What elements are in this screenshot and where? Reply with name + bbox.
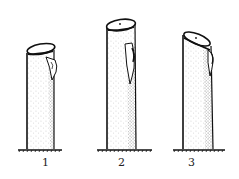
figure-label-3: 3 <box>188 157 195 168</box>
stem-1 <box>18 42 62 152</box>
figure-label-1: 1 <box>42 157 49 168</box>
pruning-diagram <box>0 0 239 179</box>
stem-2 <box>97 18 152 152</box>
figure-label-2: 2 <box>118 157 125 168</box>
stem-3 <box>173 29 225 152</box>
